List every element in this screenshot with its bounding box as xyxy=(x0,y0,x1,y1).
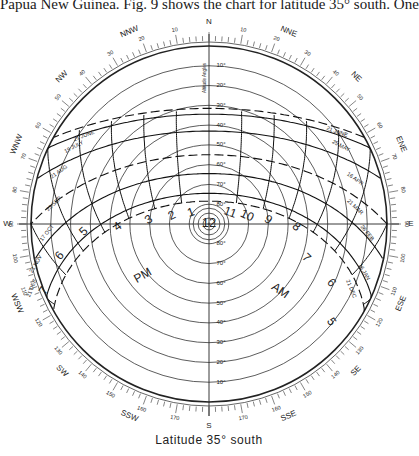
bearing-label: 20 xyxy=(138,35,146,43)
bearing-label: 80 xyxy=(11,186,18,193)
bearing-label: 150 xyxy=(302,389,313,399)
hour-label-am-10: 10 xyxy=(238,206,256,225)
bearing-label: 100 xyxy=(399,253,407,263)
compass-label-se: SE xyxy=(349,364,363,378)
compass-label-n: N xyxy=(206,17,212,26)
date-label: 16 APR xyxy=(346,171,365,187)
hour-label-noon: 12 xyxy=(202,215,216,230)
bearing-label: 90 xyxy=(404,221,410,227)
bearing-label: 80 xyxy=(400,186,407,193)
date-label: 25 MAY xyxy=(331,138,351,152)
bearing-label: 110 xyxy=(389,286,398,296)
bearing-label: 150 xyxy=(105,389,116,399)
altitude-label-south: 20° xyxy=(216,359,226,365)
date-label: 21 NOV xyxy=(28,253,43,273)
compass-label-wnw: WNW xyxy=(8,132,24,155)
bearing-label: 10 xyxy=(240,26,247,33)
altitude-label-south: 50° xyxy=(216,300,226,306)
hour-label-pm-5: 5 xyxy=(76,224,91,239)
hour-label-am-8: 8 xyxy=(290,219,304,234)
bearing-label: 140 xyxy=(77,369,88,380)
altitude-label-south: 10° xyxy=(216,379,226,385)
altitude-label-south: 80° xyxy=(216,240,226,246)
date-label: 17 OCT xyxy=(38,223,55,242)
hour-label-pm-7: 7 xyxy=(36,284,52,298)
compass-label-ene: ENE xyxy=(394,135,409,154)
compass-label-sse: SSE xyxy=(279,409,297,423)
date-label: 26 FEB xyxy=(359,224,375,242)
bearing-label: 170 xyxy=(238,414,248,422)
hour-label-pm-3: 3 xyxy=(142,211,155,227)
compass-label-nw: NW xyxy=(54,68,70,84)
bearing-label: 70 xyxy=(20,153,28,161)
altitude-label-north: 10° xyxy=(216,62,226,68)
hour-label-pm-1: 1 xyxy=(185,204,196,220)
bearing-label: 50 xyxy=(53,93,62,102)
hour-label-pm-2: 2 xyxy=(166,207,178,223)
compass-label-nne: NNE xyxy=(279,24,298,39)
bearing-label: 120 xyxy=(374,317,384,328)
bearing-label: 30 xyxy=(304,49,312,57)
hour-line xyxy=(236,111,241,203)
hour-label-pm-4: 4 xyxy=(111,219,125,234)
compass-label-ssw: SSW xyxy=(119,408,140,423)
altitude-label-north: 70° xyxy=(216,181,226,187)
bearing-label: 160 xyxy=(271,404,282,413)
bearing-label: 30 xyxy=(106,49,114,57)
hour-label-am-5: 5 xyxy=(324,315,340,329)
bearing-label: 130 xyxy=(53,345,64,356)
altitude-label-north: 40° xyxy=(216,122,226,128)
bearing-label: 50 xyxy=(356,93,365,102)
altitude-label-north: 20° xyxy=(216,82,226,88)
altitude-label-north: 30° xyxy=(216,102,226,108)
bearing-label: 60 xyxy=(376,121,384,129)
compass-label-ese: ESE xyxy=(394,294,408,312)
altitude-axis-label: Altitude Angles xyxy=(202,62,207,93)
altitude-label-south: 70° xyxy=(216,260,226,266)
compass-label-s: S xyxy=(206,421,211,430)
altitude-label-south: 40° xyxy=(216,319,226,325)
compass-label-sw: SW xyxy=(54,363,70,379)
bearing-label: 160 xyxy=(136,404,147,413)
altitude-label-north: 50° xyxy=(216,141,226,147)
altitude-label-north: 80° xyxy=(216,201,226,207)
date-label: 21 MAR xyxy=(346,198,364,216)
date-label: 21 JUNE xyxy=(326,125,349,138)
bearing-label: 140 xyxy=(330,369,341,380)
hour-label-am-7: 7 xyxy=(299,250,314,265)
date-label: 21 JUNE xyxy=(72,129,95,142)
altitude-label-south: 60° xyxy=(216,280,226,286)
altitude-label-north: 60° xyxy=(216,161,226,167)
bearing-label: 20 xyxy=(273,35,281,43)
altitude-label-south: 30° xyxy=(216,339,226,345)
bearing-label: 60 xyxy=(34,121,42,129)
hour-line xyxy=(176,111,181,203)
bearing-label: 10 xyxy=(171,26,178,33)
bearing-label: 120 xyxy=(34,317,44,328)
bearing-label: 170 xyxy=(170,414,180,422)
compass-label-ne: NE xyxy=(349,70,363,84)
bearing-label: 70 xyxy=(391,153,399,161)
hour-label-pm-6: 6 xyxy=(52,248,67,262)
hour-label-am-9: 9 xyxy=(262,212,275,228)
bearing-label: 100 xyxy=(12,253,20,263)
pm-label: PM xyxy=(131,265,154,286)
bearing-label: 130 xyxy=(354,345,365,356)
bearing-label: 40 xyxy=(332,68,341,77)
bearing-label: 90 xyxy=(8,221,14,227)
latitude-caption: Latitude 35° south xyxy=(0,433,418,447)
hour-line xyxy=(79,130,105,232)
bearing-label: 40 xyxy=(78,68,87,77)
